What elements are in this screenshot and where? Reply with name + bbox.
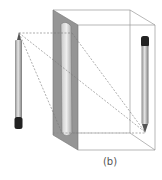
lens-plane <box>53 10 78 150</box>
optics-diagram <box>0 0 162 180</box>
pencil-eraser-icon <box>141 36 149 47</box>
lens-body <box>61 22 72 135</box>
ray-lines <box>19 33 145 133</box>
figure-caption: (b) <box>0 156 162 167</box>
pencil-tip-icon <box>142 124 148 133</box>
pencil-eraser-icon <box>15 117 23 129</box>
image-pencil <box>141 36 149 133</box>
object-pencil <box>15 32 23 129</box>
